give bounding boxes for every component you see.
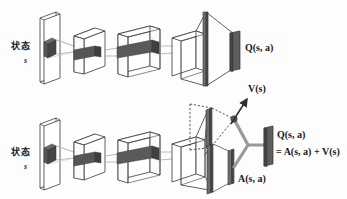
value-stream-label: V(s) (248, 84, 266, 95)
output-bar-icon-top (230, 31, 240, 72)
conv-layer-box-icon-top-2 (117, 26, 172, 77)
bottom-state-label-var: s (24, 163, 27, 171)
up-right-arrow-icon (231, 99, 247, 124)
conv-layer-box-icon-bottom-1 (74, 134, 118, 180)
figure-canvas: 状态 s Q(s, a) V(s) 状态 s A(s, a) Q(s, a) =… (0, 0, 347, 199)
conv-layer-box-icon-top-1 (74, 28, 118, 74)
fully-connected-bar-icon-top (203, 12, 208, 86)
top-row-group (40, 12, 240, 86)
advantage-stream-label: A(s, a) (238, 174, 266, 185)
bottom-output-label-line1: Q(s, a) (277, 130, 305, 141)
conv-layer-box-icon-bottom-3 (172, 137, 205, 185)
input-plane-icon-bottom (40, 118, 74, 190)
merge-node-icon (231, 116, 266, 167)
input-plane-icon-top (40, 12, 74, 84)
architecture-diagram-svg (0, 0, 347, 199)
bottom-output-label-line2: = A(s, a) + V(s) (276, 147, 340, 158)
top-output-label: Q(s, a) (245, 43, 273, 54)
conv-layer-box-icon-bottom-2 (117, 132, 172, 183)
output-bar-icon-bottom (264, 126, 273, 167)
advantage-stream-bar-icon (207, 144, 234, 194)
top-state-label-cn: 状态 (11, 42, 30, 51)
top-state-label-var: s (24, 57, 27, 65)
bottom-state-label-cn: 状态 (11, 148, 30, 157)
value-stream-bar-icon (206, 108, 212, 148)
conv-layer-box-icon-top-3 (172, 31, 205, 79)
